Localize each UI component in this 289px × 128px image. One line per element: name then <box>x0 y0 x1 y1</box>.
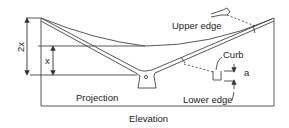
label-projection: Projection <box>76 92 118 103</box>
label-lower-edge: Lower edge <box>183 94 233 105</box>
label-x: x <box>45 55 50 66</box>
valley-connector <box>136 70 156 88</box>
elevation-diagram: Upper edge Curb a Lower edge Projection … <box>0 0 289 128</box>
glazing-lines <box>41 18 274 73</box>
label-curb: Curb <box>223 49 244 60</box>
label-2x: 2x <box>15 42 26 52</box>
label-a: a <box>244 67 250 78</box>
frame <box>26 18 274 106</box>
label-elevation: Elevation <box>129 113 168 124</box>
label-upper-edge: Upper edge <box>172 20 222 31</box>
